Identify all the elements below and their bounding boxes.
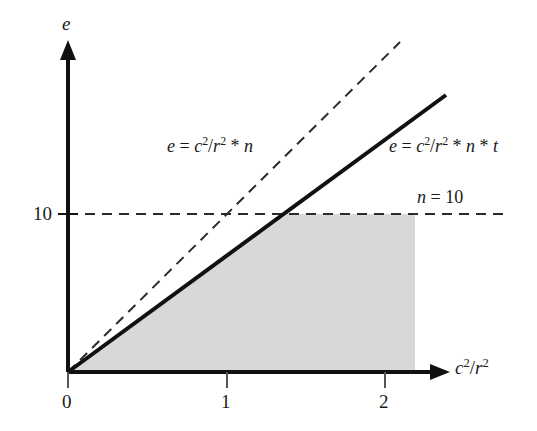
solid-label-star-1: * [448,136,466,156]
x-axis-arrowhead [430,364,450,380]
dashed-label-star: * [226,136,244,156]
x-tick-label-0: 0 [62,392,72,411]
y-tick-label-10: 10 [33,204,52,223]
solid-series-label: e = c2/r2 * n * t [389,137,498,155]
chart-figure: e c2/r2 10 0 1 2 e = c2/r2 * n e = c2/r2… [0,0,537,431]
dashed-label-c: c [194,136,202,156]
y-axis-arrowhead [60,40,76,60]
solid-label-c: c [416,136,424,156]
threshold-label-n: n [417,187,426,207]
x-tick-label-1: 1 [221,392,231,411]
x-tick-label-2: 2 [379,392,389,411]
solid-label-t: t [493,136,498,156]
dashed-label-equals: = [175,136,194,156]
solid-label-e: e [389,136,397,156]
threshold-label-equals: = [426,187,445,207]
threshold-label-value: 10 [445,187,463,207]
solid-label-equals: = [397,136,416,156]
solid-label-n: n [466,136,475,156]
threshold-annotation-label: n = 10 [417,188,463,206]
y-axis-label: e [62,14,70,33]
dashed-label-n: n [244,136,253,156]
x-axis-label-r-exponent: 2 [482,356,488,370]
solid-label-star-2: * [475,136,493,156]
dashed-series-label: e = c2/r2 * n [167,137,253,155]
shaded-feasible-region [68,214,415,372]
dashed-label-e: e [167,136,175,156]
x-axis-label: c2/r2 [455,358,489,377]
